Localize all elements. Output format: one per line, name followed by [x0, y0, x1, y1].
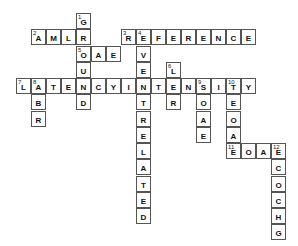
- cell-letter: A: [92, 51, 105, 60]
- crossword-cell[interactable]: C: [271, 159, 286, 175]
- crossword-cell[interactable]: E: [166, 78, 181, 94]
- cell-letter: A: [137, 164, 150, 173]
- crossword-cell[interactable]: E: [166, 29, 181, 45]
- cell-letter: O: [197, 99, 210, 108]
- cell-letter: D: [77, 99, 90, 108]
- crossword-cell[interactable]: A: [256, 143, 271, 159]
- cell-letter: O: [77, 51, 90, 60]
- crossword-cell[interactable]: F: [151, 29, 166, 45]
- crossword-cell[interactable]: N: [76, 78, 91, 94]
- cell-letter: N: [182, 83, 195, 92]
- crossword-cell[interactable]: V: [136, 46, 151, 62]
- cell-letter: T: [137, 99, 150, 108]
- cell-letter: R: [182, 34, 195, 43]
- crossword-cell[interactable]: C: [271, 192, 286, 208]
- crossword-cell[interactable]: 9S: [196, 78, 211, 94]
- cell-letter: I: [122, 83, 135, 92]
- crossword-cell[interactable]: E: [226, 94, 241, 110]
- cell-letter: D: [137, 213, 150, 222]
- crossword-cell[interactable]: D: [76, 94, 91, 110]
- cell-letter: T: [47, 83, 60, 92]
- crossword-cell[interactable]: T: [151, 78, 166, 94]
- crossword-cell[interactable]: R: [76, 29, 91, 45]
- cell-letter: Y: [242, 83, 255, 92]
- crossword-cell[interactable]: 3R: [121, 29, 136, 45]
- cell-letter: R: [137, 116, 150, 125]
- crossword-cell[interactable]: E: [136, 192, 151, 208]
- cell-letter: R: [122, 34, 135, 43]
- crossword-cell[interactable]: L: [136, 143, 151, 159]
- crossword-cell[interactable]: 11E: [226, 143, 241, 159]
- crossword-cell[interactable]: A: [91, 46, 106, 62]
- crossword-cell[interactable]: Y: [106, 78, 121, 94]
- crossword-cell[interactable]: N: [211, 29, 226, 45]
- crossword-cell[interactable]: I: [211, 78, 226, 94]
- crossword-cell[interactable]: A: [196, 111, 211, 127]
- crossword-cell[interactable]: Y: [241, 78, 256, 94]
- crossword-cell[interactable]: N: [181, 78, 196, 94]
- cell-letter: E: [167, 34, 180, 43]
- crossword-cell[interactable]: E: [136, 62, 151, 78]
- crossword-cell[interactable]: O: [196, 94, 211, 110]
- crossword-cell[interactable]: M: [46, 29, 61, 45]
- crossword-cell[interactable]: O: [226, 111, 241, 127]
- crossword-cell[interactable]: E: [196, 29, 211, 45]
- crossword-cell[interactable]: E: [241, 29, 256, 45]
- crossword-cell[interactable]: R: [31, 111, 46, 127]
- cell-letter: F: [152, 34, 165, 43]
- crossword-cell[interactable]: G: [271, 224, 286, 240]
- cell-letter: E: [197, 132, 210, 141]
- cell-letter: N: [137, 83, 150, 92]
- crossword-cell[interactable]: U: [76, 62, 91, 78]
- cell-letter: E: [167, 83, 180, 92]
- crossword-cell[interactable]: A: [226, 127, 241, 143]
- crossword-grid: 1GR5OUND2AML3R4EFERENCEVENTRELATEDAE6LER…: [0, 0, 298, 246]
- cell-letter: E: [197, 34, 210, 43]
- crossword-cell[interactable]: T: [46, 78, 61, 94]
- cell-letter: V: [137, 51, 150, 60]
- crossword-cell[interactable]: C: [91, 78, 106, 94]
- cell-letter: O: [242, 148, 255, 157]
- crossword-cell[interactable]: N: [136, 78, 151, 94]
- cell-letter: Y: [107, 83, 120, 92]
- cell-letter: E: [227, 148, 240, 157]
- crossword-cell[interactable]: D: [136, 208, 151, 224]
- cell-letter: T: [152, 83, 165, 92]
- crossword-cell[interactable]: R: [166, 94, 181, 110]
- crossword-cell[interactable]: 1G: [76, 13, 91, 29]
- crossword-cell[interactable]: O: [271, 176, 286, 192]
- cell-letter: A: [197, 116, 210, 125]
- crossword-cell[interactable]: C: [226, 29, 241, 45]
- crossword-cell[interactable]: E: [106, 46, 121, 62]
- cell-letter: E: [107, 51, 120, 60]
- crossword-cell[interactable]: E: [196, 127, 211, 143]
- crossword-cell[interactable]: R: [181, 29, 196, 45]
- crossword-cell[interactable]: R: [136, 111, 151, 127]
- cell-letter: A: [227, 132, 240, 141]
- crossword-cell[interactable]: L: [61, 29, 76, 45]
- crossword-cell[interactable]: T: [136, 176, 151, 192]
- cell-letter: L: [17, 83, 30, 92]
- cell-letter: B: [32, 99, 45, 108]
- crossword-cell[interactable]: 6L: [166, 62, 181, 78]
- cell-letter: T: [227, 83, 240, 92]
- crossword-cell[interactable]: 5O: [76, 46, 91, 62]
- crossword-cell[interactable]: T: [136, 94, 151, 110]
- cell-letter: C: [227, 34, 240, 43]
- crossword-cell[interactable]: H: [271, 208, 286, 224]
- crossword-cell[interactable]: 4E: [136, 29, 151, 45]
- crossword-cell[interactable]: 12E: [271, 143, 286, 159]
- crossword-cell[interactable]: E: [136, 127, 151, 143]
- cell-letter: R: [167, 99, 180, 108]
- crossword-cell[interactable]: 8A: [31, 78, 46, 94]
- crossword-cell[interactable]: I: [121, 78, 136, 94]
- crossword-cell[interactable]: A: [136, 159, 151, 175]
- crossword-cell[interactable]: 2A: [31, 29, 46, 45]
- crossword-cell[interactable]: O: [241, 143, 256, 159]
- crossword-cell[interactable]: E: [61, 78, 76, 94]
- crossword-cell[interactable]: 10T: [226, 78, 241, 94]
- crossword-cell[interactable]: B: [31, 94, 46, 110]
- cell-letter: C: [92, 83, 105, 92]
- cell-letter: E: [227, 99, 240, 108]
- crossword-cell[interactable]: 7L: [16, 78, 31, 94]
